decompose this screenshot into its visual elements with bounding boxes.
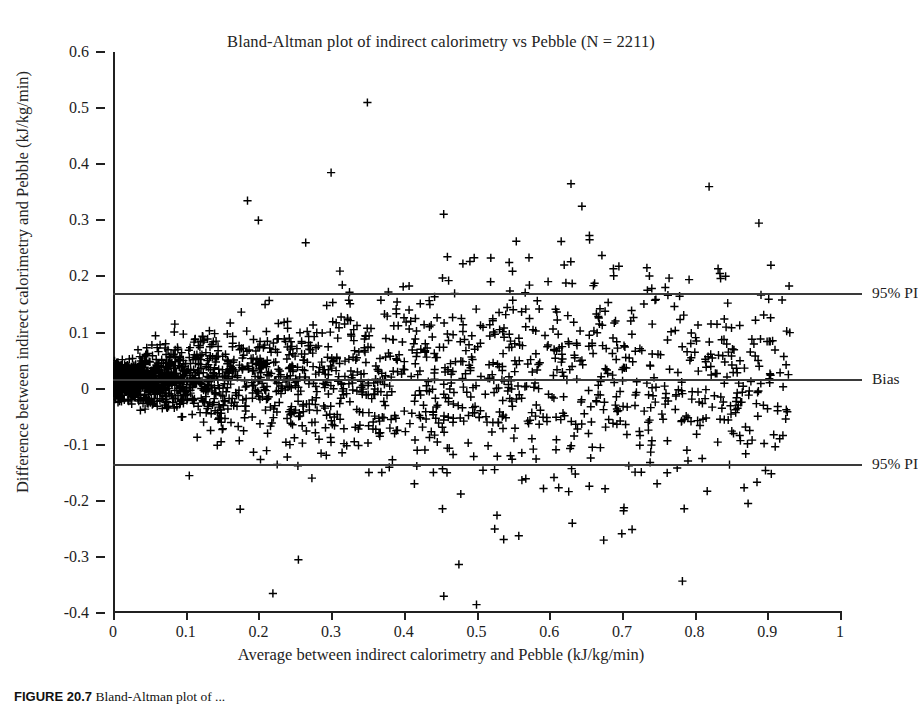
y-tick-mark — [96, 612, 105, 614]
x-tick-mark — [549, 611, 551, 620]
x-tick-label: 1 — [836, 623, 844, 641]
y-tick-label: 0 — [81, 380, 89, 398]
x-tick-mark — [331, 611, 333, 620]
x-tick-mark — [622, 611, 624, 620]
x-tick-mark — [113, 611, 115, 620]
x-tick-label: 0.7 — [612, 623, 632, 641]
y-tick-mark — [96, 163, 105, 165]
x-axis-title: Average between indirect calorimetry and… — [0, 645, 882, 665]
x-tick-label: 0.1 — [176, 623, 196, 641]
scatter-svg — [113, 52, 840, 613]
y-tick-label: -0.1 — [64, 436, 89, 454]
x-tick-label: 0.9 — [757, 623, 777, 641]
x-tick-mark — [840, 611, 842, 620]
reference-line — [113, 464, 862, 466]
reference-line — [113, 379, 862, 381]
chart-title: Bland-Altman plot of indirect calorimetr… — [0, 32, 882, 52]
y-tick-label: 0.5 — [69, 99, 89, 117]
y-tick-label: -0.4 — [64, 604, 89, 622]
plot-area — [113, 52, 840, 613]
y-tick-label: -0.2 — [64, 492, 89, 510]
x-tick-label: 0.8 — [685, 623, 705, 641]
x-tick-mark — [767, 611, 769, 620]
x-axis-ticks: 00.10.20.30.40.50.60.70.80.91 — [113, 613, 853, 641]
reference-line — [113, 293, 862, 295]
y-tick-mark — [96, 556, 105, 558]
x-tick-label: 0.2 — [248, 623, 268, 641]
y-tick-label: 0.1 — [69, 324, 89, 342]
reference-line-label: Bias — [872, 370, 900, 388]
y-axis-title: Difference between indirect calorimetry … — [13, 0, 33, 572]
x-tick-label: 0.3 — [321, 623, 341, 641]
reference-line-label: 95% PI — [872, 284, 918, 302]
reference-line-label: 95% PI — [872, 455, 918, 473]
y-tick-mark — [96, 107, 105, 109]
y-tick-mark — [96, 444, 105, 446]
figure-caption-text: Bland-Altman plot of ... — [95, 689, 225, 704]
y-tick-label: 0.6 — [69, 43, 89, 61]
y-tick-label: 0.3 — [69, 211, 89, 229]
y-tick-mark — [96, 219, 105, 221]
y-tick-label: -0.3 — [64, 548, 89, 566]
y-tick-label: 0.2 — [69, 267, 89, 285]
y-tick-mark — [96, 332, 105, 334]
figure-number: FIGURE 20.7 — [14, 689, 92, 704]
x-tick-mark — [404, 611, 406, 620]
x-tick-label: 0.6 — [539, 623, 559, 641]
y-tick-mark — [96, 51, 105, 53]
y-tick-mark — [96, 388, 105, 390]
x-tick-label: 0.5 — [467, 623, 487, 641]
x-tick-label: 0.4 — [394, 623, 414, 641]
x-tick-mark — [258, 611, 260, 620]
scatter-points-layer — [113, 52, 840, 613]
figure-caption: FIGURE 20.7 Bland-Altman plot of ... — [14, 688, 874, 706]
x-tick-mark — [186, 611, 188, 620]
y-tick-mark — [96, 500, 105, 502]
scatter-marker-group — [113, 98, 794, 608]
x-tick-mark — [477, 611, 479, 620]
y-tick-mark — [96, 275, 105, 277]
y-tick-label: 0.4 — [69, 155, 89, 173]
x-tick-label: 0 — [109, 623, 117, 641]
x-tick-mark — [695, 611, 697, 620]
